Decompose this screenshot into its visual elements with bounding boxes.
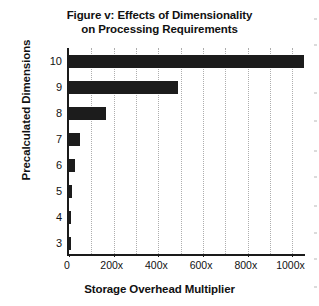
plot-area [67, 48, 305, 256]
chart-title-line-2: on Processing Requirements [18, 22, 301, 36]
x-minor-tick-300 [136, 254, 137, 256]
x-tick-label-400x: 400x [145, 259, 168, 272]
bar-row [69, 152, 305, 178]
y-tick-label-6: 6 [40, 159, 62, 171]
x-tick-400 [158, 254, 159, 257]
x-tick-1000 [292, 254, 293, 257]
bar-dimension-6 [69, 159, 75, 172]
bar-dimension-7 [69, 133, 80, 146]
bar-row [69, 100, 305, 126]
bar-row [69, 48, 305, 74]
bar-dimension-10 [69, 55, 304, 68]
bar-dimension-8 [69, 107, 106, 120]
x-tick-label-1000x: 1000x [276, 259, 305, 272]
bar-series [69, 48, 305, 254]
y-tick-label-4: 4 [40, 211, 62, 223]
bar-row [69, 178, 305, 204]
bar-row [69, 204, 305, 230]
x-tick-label-0: 0 [64, 259, 70, 272]
bar-row [69, 126, 305, 152]
scan-edge-artifact [312, 0, 318, 306]
x-tick-0 [69, 254, 70, 257]
bar-dimension-4 [69, 211, 71, 224]
y-tick-label-5: 5 [40, 185, 62, 197]
x-axis-tick-labels: 0200x400x600x800x1000x [67, 259, 305, 273]
bar-dimension-9 [69, 81, 178, 94]
y-tick-label-9: 9 [40, 81, 62, 93]
y-tick-label-7: 7 [40, 133, 62, 145]
x-tick-label-800x: 800x [234, 259, 257, 272]
y-axis-title: Precalculated Dimensions [20, 20, 32, 200]
x-minor-tick-500 [181, 254, 182, 256]
x-minor-tick-700 [225, 254, 226, 256]
bar-row [69, 230, 305, 256]
x-minor-tick-900 [270, 254, 271, 256]
x-tick-200 [114, 254, 115, 257]
y-axis-tick-labels: 109876543 [36, 48, 62, 256]
y-tick-label-10: 10 [40, 55, 62, 67]
y-tick-label-3: 3 [40, 237, 62, 249]
bar-row [69, 74, 305, 100]
chart-title: Figure v: Effects of Dimensionality on P… [18, 8, 301, 36]
x-minor-tick-100 [91, 254, 92, 256]
bar-dimension-5 [69, 185, 72, 198]
chart-title-line-1: Figure v: Effects of Dimensionality [18, 8, 301, 22]
figure-container: Figure v: Effects of Dimensionality on P… [0, 0, 319, 306]
x-tick-600 [203, 254, 204, 257]
y-tick-label-8: 8 [40, 107, 62, 119]
x-tick-label-600x: 600x [190, 259, 213, 272]
bar-dimension-3 [69, 237, 71, 250]
x-axis-title: Storage Overhead Multiplier [18, 283, 301, 295]
x-tick-800 [248, 254, 249, 257]
x-tick-label-200x: 200x [100, 259, 123, 272]
